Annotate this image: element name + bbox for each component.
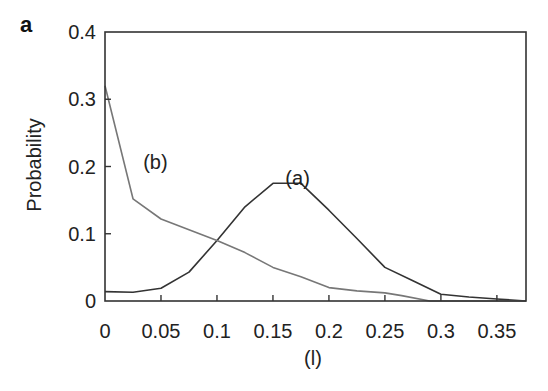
- curve-b: [105, 86, 526, 301]
- curves: [105, 86, 526, 301]
- panel-label: a: [20, 12, 33, 37]
- x-tick-label: 0.2: [315, 320, 343, 342]
- plot-frame: [105, 32, 526, 301]
- x-axis-ticks: 00.050.10.150.20.250.30.35: [99, 295, 516, 342]
- y-tick-label: 0.2: [68, 156, 96, 178]
- probability-chart: a 00.050.10.150.20.250.30.35 00.10.20.30…: [0, 0, 548, 391]
- curve-label-b: (b): [143, 151, 167, 173]
- x-tick-label: 0.15: [253, 320, 292, 342]
- axes-frame: [105, 32, 526, 301]
- x-tick-label: 0.05: [142, 320, 181, 342]
- x-tick-label: 0: [99, 320, 110, 342]
- y-tick-label: 0.3: [68, 88, 96, 110]
- y-tick-label: 0.1: [68, 223, 96, 245]
- x-tick-label: 0.3: [427, 320, 455, 342]
- curve-a: [105, 183, 526, 301]
- x-axis-label: (l): [304, 347, 322, 369]
- curve-label-a: (a): [285, 167, 309, 189]
- y-axis-label: Probability: [23, 118, 45, 211]
- curve-labels: (a)(b): [143, 151, 310, 189]
- x-tick-label: 0.35: [477, 320, 516, 342]
- y-tick-label: 0.4: [68, 21, 96, 43]
- y-tick-label: 0: [85, 290, 96, 312]
- x-tick-label: 0.25: [365, 320, 404, 342]
- x-tick-label: 0.1: [203, 320, 231, 342]
